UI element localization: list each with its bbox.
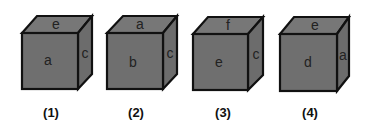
- cube-2-top-letter: a: [136, 16, 144, 32]
- cube-3-top-letter: f: [226, 17, 230, 33]
- cube-2-front-letter: b: [129, 54, 137, 70]
- cube-1-top-letter: e: [52, 16, 60, 32]
- cube-diagram: e a c a b c f e c e d a (1) (2) (3) (4): [0, 0, 372, 128]
- cube-1-front-letter: a: [44, 52, 52, 68]
- cube-4-right-letter: a: [339, 47, 347, 63]
- cube-3-caption: (3): [215, 105, 231, 120]
- cube-4-front-letter: d: [304, 54, 312, 70]
- cube-3-right-letter: c: [253, 46, 260, 62]
- cube-4-top-letter: e: [311, 17, 319, 33]
- cube-3-front-letter: e: [215, 54, 223, 70]
- cube-4-caption: (4): [302, 105, 318, 120]
- cube-1: e a c: [22, 16, 92, 89]
- cube-3: f e c: [193, 17, 263, 90]
- cube-4: e d a: [280, 17, 349, 91]
- cube-1-caption: (1): [43, 105, 59, 120]
- cube-2: a b c: [107, 16, 177, 89]
- cube-1-right-letter: c: [82, 45, 89, 61]
- cube-2-right-letter: c: [167, 45, 174, 61]
- cube-2-caption: (2): [128, 105, 144, 120]
